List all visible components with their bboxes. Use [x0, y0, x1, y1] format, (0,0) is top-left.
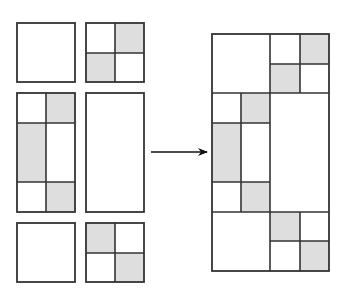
shaded-cell [270, 64, 300, 93]
shaded-cell [241, 93, 270, 123]
shaded-cell [17, 123, 46, 182]
shaded-cell [115, 23, 144, 53]
composite-rectangle [212, 34, 329, 271]
shaded-cell [270, 212, 300, 241]
tile-1 [17, 23, 75, 82]
shaded-cell [46, 182, 75, 212]
shaded-cell [300, 34, 329, 64]
shaded-cell [300, 241, 329, 271]
composite-figure [212, 34, 329, 271]
shaded-cell [115, 253, 144, 282]
tile-3 [17, 93, 75, 212]
figure-background [86, 93, 144, 212]
shaded-cell [86, 223, 115, 253]
tile-6 [86, 223, 144, 282]
tile-4 [86, 93, 144, 212]
tile-5 [17, 223, 75, 282]
shaded-cell [212, 123, 241, 182]
shaded-cell [46, 93, 75, 123]
figure-background [17, 23, 75, 82]
source-tiles [17, 23, 144, 282]
shaded-cell [241, 182, 270, 212]
diagram-canvas [0, 0, 354, 295]
tiling-diagram [0, 0, 354, 295]
figure-background [17, 223, 75, 282]
tile-2 [86, 23, 144, 82]
shaded-cell [86, 53, 115, 82]
